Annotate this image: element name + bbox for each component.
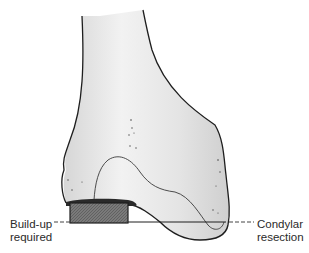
resection-label-line2: resection (257, 231, 304, 244)
buildup-label-line1: Build-up (10, 218, 52, 231)
condylar-resection-label: Condylar resection (257, 218, 304, 244)
femur-diagram (0, 0, 309, 253)
buildup-required-label: Build-up required (10, 218, 52, 244)
resection-label-line1: Condylar (257, 218, 304, 231)
buildup-block (70, 203, 128, 223)
buildup-label-line2: required (10, 231, 52, 244)
